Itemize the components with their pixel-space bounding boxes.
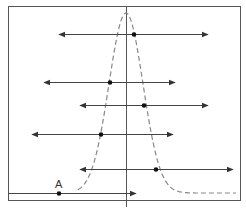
plot-frame [9, 7, 241, 201]
diagram-canvas: A [0, 0, 246, 208]
sample-point-3 [142, 103, 147, 108]
sample-point-4 [99, 132, 104, 137]
bell-curve [78, 13, 236, 193]
sample-point-2 [108, 80, 113, 85]
interval-lines [8, 32, 233, 196]
sample-point-6 [57, 191, 62, 196]
sample-point-5 [154, 167, 159, 172]
point-label-a: A [55, 178, 63, 190]
sample-point-1 [132, 32, 137, 37]
